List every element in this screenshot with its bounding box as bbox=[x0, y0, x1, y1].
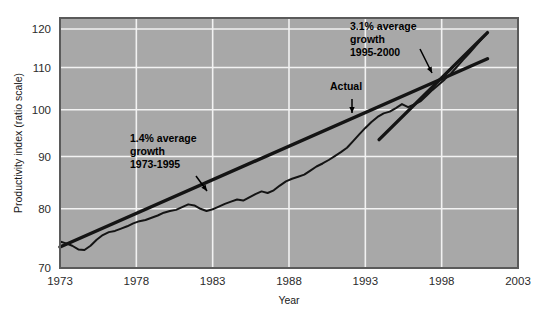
y-axis-title: Productivity index (ratio scale) bbox=[12, 73, 24, 213]
x-tick-label-1983: 1983 bbox=[200, 275, 226, 287]
productivity-growth-chart-figure: 708090100110120 197319781983198819931998… bbox=[0, 0, 539, 320]
x-tick-label-1978: 1978 bbox=[124, 275, 150, 287]
y-tick-label-120: 120 bbox=[32, 23, 51, 35]
annot-actual-line-1: Actual bbox=[330, 80, 362, 92]
annot-growth-14-line-3: 1973-1995 bbox=[130, 158, 180, 170]
x-tick-label-1993: 1993 bbox=[353, 275, 379, 287]
y-tick-label-90: 90 bbox=[38, 151, 51, 163]
x-tick-label-2003: 2003 bbox=[505, 275, 531, 287]
annot-growth-14-line-2: growth bbox=[130, 145, 165, 157]
annot-growth-31-line-3: 1995-2000 bbox=[350, 46, 400, 58]
y-tick-label-100: 100 bbox=[32, 104, 51, 116]
x-axis-title: Year bbox=[278, 294, 300, 306]
annot-growth-31-line-1: 3.1% average bbox=[350, 20, 417, 32]
x-tick-label-1973: 1973 bbox=[47, 275, 73, 287]
x-tick-label-1988: 1988 bbox=[276, 275, 302, 287]
y-tick-label-80: 80 bbox=[38, 203, 51, 215]
y-tick-label-110: 110 bbox=[33, 62, 51, 74]
annot-growth-14-line-1: 1.4% average bbox=[130, 132, 197, 144]
chart-canvas: 708090100110120 197319781983198819931998… bbox=[0, 0, 539, 320]
y-tick-label-70: 70 bbox=[38, 262, 51, 274]
annot-growth-31-line-2: growth bbox=[350, 33, 385, 45]
x-tick-label-1998: 1998 bbox=[429, 275, 455, 287]
